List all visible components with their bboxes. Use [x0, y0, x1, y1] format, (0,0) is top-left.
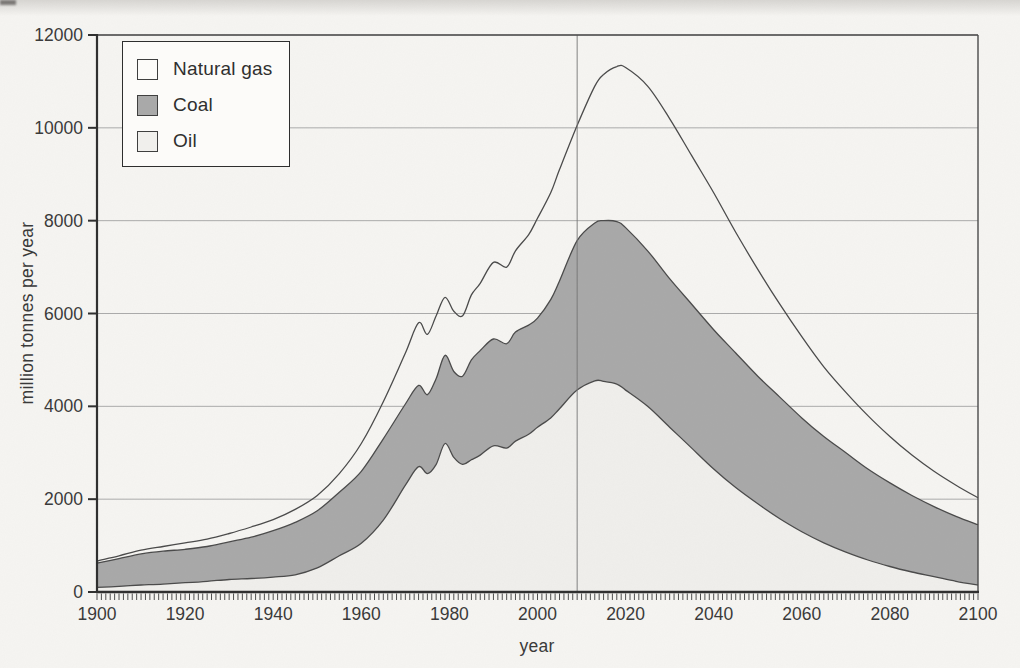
legend-label: Oil: [173, 130, 197, 152]
chart-legend: Natural gas Coal Oil: [122, 41, 290, 167]
oil-swatch-icon: [137, 131, 158, 152]
coal-swatch-icon: [137, 95, 158, 116]
natural-gas-swatch-icon: [137, 59, 158, 80]
legend-item-coal: Coal: [137, 87, 289, 123]
legend-label: Natural gas: [173, 58, 272, 80]
scanned-chart-page: 0200040006000800010000120001900192019401…: [0, 0, 1020, 668]
legend-item-natural-gas: Natural gas: [137, 51, 289, 87]
y-axis-title: million tonnes per year: [17, 222, 38, 405]
legend-label: Coal: [173, 94, 213, 116]
scan-corner-smudge: [0, 0, 16, 5]
x-axis-title: year: [519, 636, 554, 657]
legend-item-oil: Oil: [137, 123, 289, 159]
